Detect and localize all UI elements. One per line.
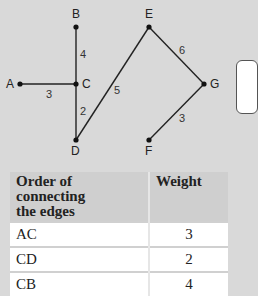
callout-box [236, 60, 258, 114]
node-C [73, 81, 78, 86]
weighted-graph: 342563ABCDEFG [0, 0, 243, 165]
edge-weight-label: 2 [80, 105, 86, 117]
node-label: A [6, 77, 14, 91]
header-order: Order of connectingthe edges [10, 172, 149, 222]
header-weight: Weight [149, 172, 228, 222]
table-row: AC 3 [10, 222, 228, 247]
edge-order-table: Order of connectingthe edges Weight AC 3… [10, 172, 228, 296]
node-G [201, 81, 206, 86]
edge-cell: AC [10, 222, 149, 247]
table-row: CD 2 [10, 247, 228, 272]
node-E [146, 24, 151, 29]
header-order-line1: Order of connecting [16, 173, 85, 204]
table-row: CB 4 [10, 272, 228, 296]
header-order-line2: the edges [16, 203, 75, 219]
edge-weight-label: 5 [114, 84, 120, 96]
edge-EG [149, 27, 204, 84]
node-label: B [72, 7, 80, 21]
weight-cell: 2 [149, 247, 228, 272]
edge-weight-label: 6 [179, 44, 185, 56]
weight-cell: 3 [149, 222, 228, 247]
edge-weight-label: 3 [46, 88, 52, 100]
edge-cell: CD [10, 247, 149, 272]
node-label: E [145, 7, 153, 21]
table-header-row: Order of connectingthe edges Weight [10, 172, 228, 222]
node-label: G [210, 77, 219, 91]
node-A [17, 81, 22, 86]
node-F [146, 137, 151, 142]
edge-cell: CB [10, 272, 149, 296]
edge-weight-label: 3 [179, 112, 185, 124]
edge-FG [149, 84, 204, 140]
node-B [73, 24, 78, 29]
node-D [73, 137, 78, 142]
weight-cell: 4 [149, 272, 228, 296]
edge-weight-label: 4 [80, 48, 86, 60]
node-label: C [82, 77, 91, 91]
node-label: D [71, 144, 80, 158]
node-label: F [145, 144, 152, 158]
